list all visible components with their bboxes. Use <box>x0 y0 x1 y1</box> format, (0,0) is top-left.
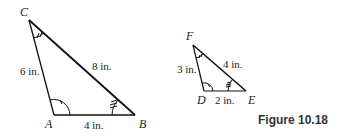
triangle-abc <box>29 20 135 115</box>
side-ca-label: 6 in. <box>20 65 40 77</box>
figure-canvas: C A B 6 in. 8 in. 4 in. F D E 3 in. 4 i <box>0 0 341 139</box>
side-fd-label: 3 in. <box>177 63 197 75</box>
vertex-b-label: B <box>139 117 147 131</box>
side-ab-label: 4 in. <box>84 119 104 131</box>
vertex-d-label: D <box>196 93 206 107</box>
vertex-a-label: A <box>44 117 53 131</box>
similar-triangles-diagram: C A B 6 in. 8 in. 4 in. F D E 3 in. 4 i <box>0 0 341 139</box>
vertex-e-label: E <box>247 93 256 107</box>
side-fe-label: 4 in. <box>223 58 243 70</box>
side-cb-label: 8 in. <box>92 60 112 72</box>
vertex-f-label: F <box>185 29 194 43</box>
figure-caption: Figure 10.18 <box>258 113 328 127</box>
vertex-c-label: C <box>20 5 29 19</box>
angle-e-arc <box>228 80 232 91</box>
side-de-label: 2 in. <box>215 94 235 106</box>
